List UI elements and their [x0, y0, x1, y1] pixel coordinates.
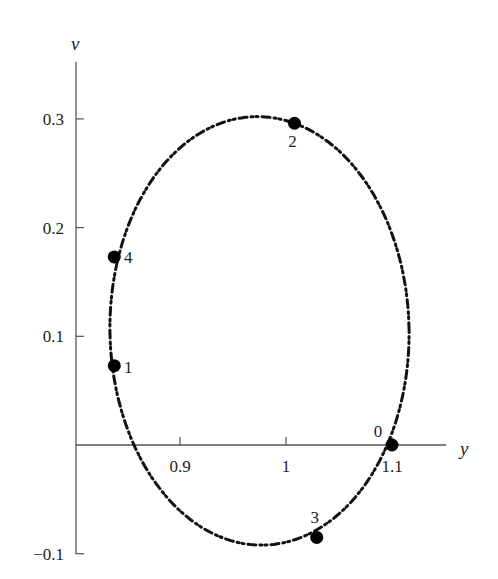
point-label-0: 0 — [374, 422, 383, 441]
tick-labels: 0.911.10.30.20.1−0.1 — [33, 110, 402, 564]
v-tick-label: −0.1 — [33, 545, 64, 564]
point-label-4: 4 — [124, 248, 133, 267]
x-tick-label: 1.1 — [381, 457, 402, 476]
point-marker-2 — [288, 117, 301, 130]
point-marker-0 — [386, 439, 399, 452]
x-tick-label: 0.9 — [169, 457, 190, 476]
point-label-2: 2 — [288, 132, 297, 151]
x-tick-label: 1 — [282, 457, 291, 476]
point-label-3: 3 — [310, 508, 319, 527]
point-marker-1 — [108, 359, 121, 372]
point-marker-3 — [310, 531, 323, 544]
v-tick-label: 0.1 — [43, 327, 64, 346]
v-axis-title: v — [71, 33, 80, 54]
v-tick-label: 0.2 — [43, 219, 64, 238]
phase-plot: 0.911.10.30.20.1−0.1 v y 01234 — [0, 0, 498, 579]
v-tick-label: 0.3 — [43, 110, 64, 129]
point-label-1: 1 — [124, 358, 133, 377]
orbit-curve — [110, 117, 409, 545]
y-axis-title: y — [458, 438, 469, 459]
axis-ticks — [76, 119, 392, 554]
point-marker-4 — [108, 250, 121, 263]
